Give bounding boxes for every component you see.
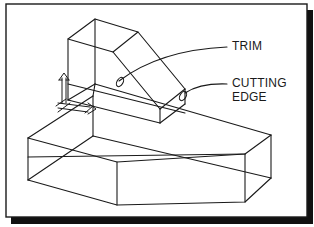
drawing-frame	[6, 4, 307, 217]
trim-label: TRIM	[232, 40, 262, 53]
diagram-canvas: TRIM CUTTING EDGE	[0, 0, 314, 227]
cutting-edge-label-line1: CUTTING	[232, 77, 287, 90]
wireframe-drawing	[0, 0, 314, 227]
cutting-edge-label-line2: EDGE	[232, 91, 267, 104]
